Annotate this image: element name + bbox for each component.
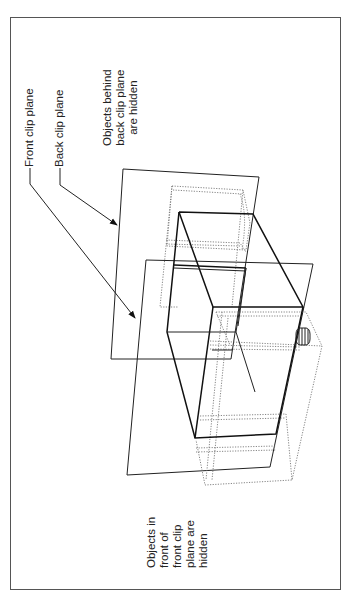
front-clip-leader [30,168,135,318]
in-front-of-front-plane-note: Objects in front of front clip plane are… [145,517,210,568]
back-clip-leader [60,168,117,225]
hidden-geometry-front [196,312,322,485]
front-clip-plane [127,260,313,475]
front-clip-plane-label: Front clip plane [23,88,36,167]
visible-cube [167,212,303,438]
hidden-geometry-back [160,186,250,307]
back-clip-plane-label: Back clip plane [53,90,66,167]
behind-back-plane-note: Objects behind back clip plane are hidde… [101,69,140,146]
back-clip-plane [111,169,259,359]
